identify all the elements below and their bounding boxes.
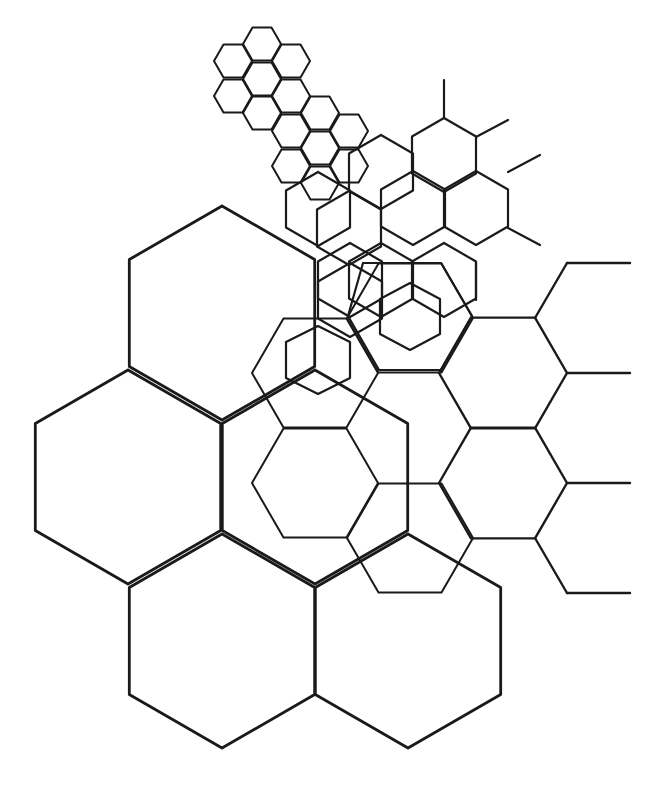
tiling-layers [35, 28, 630, 749]
edge-stub [535, 538, 567, 593]
edge-stub [508, 155, 540, 172]
upper-right-pointy-hex-grid [286, 80, 540, 337]
hexagon-cell [347, 483, 473, 592]
edge-stub [508, 228, 540, 245]
hexagon-cell [301, 167, 339, 200]
hexagon-cell [315, 534, 500, 748]
hexagon-cell [439, 318, 567, 429]
large-pointy-hex-grid [35, 206, 500, 748]
hexagon-cell [439, 428, 567, 539]
hexagon-cell [444, 171, 508, 245]
hexagon-cell [347, 263, 473, 372]
hexagon-cell [252, 428, 378, 537]
hexagon-cell [412, 118, 476, 192]
hexagon-cell [222, 370, 407, 584]
small-flat-hex-cluster [214, 28, 368, 200]
polygon-outline [380, 283, 440, 350]
right-flat-hex-column [439, 263, 630, 593]
edge-stub [476, 120, 508, 137]
hex-tiling-diagram [0, 0, 650, 792]
polygon-outline [286, 326, 350, 394]
edge-stub [535, 263, 567, 318]
